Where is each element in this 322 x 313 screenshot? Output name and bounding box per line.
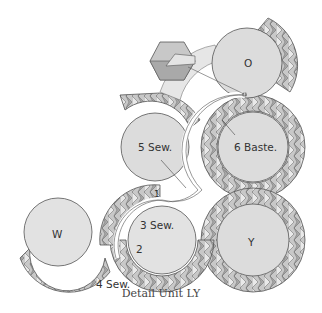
label-6-baste: 6 Baste. — [234, 141, 277, 153]
label-step-2: 2 — [136, 243, 143, 255]
label-o: O — [244, 57, 252, 69]
label-3-sew: 3 Sew. — [140, 219, 174, 231]
label-5-sew: 5 Sew. — [138, 141, 172, 153]
label-y: Y — [247, 236, 255, 248]
quilt-diagram: O 5 Sew. 6 Baste. W 3 Sew. Y 1 2 4 Sew. — [0, 0, 322, 313]
figure-caption: Detail Unit LY — [0, 287, 322, 300]
label-step-1: 1 — [154, 189, 160, 199]
label-w: W — [52, 228, 63, 240]
circle-3 — [128, 206, 196, 274]
